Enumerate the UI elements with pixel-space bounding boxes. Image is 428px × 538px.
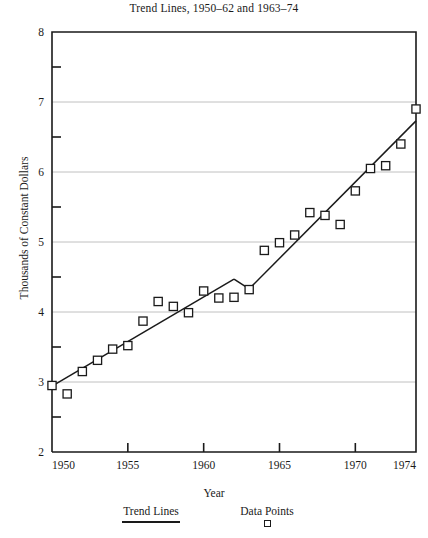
svg-text:1970: 1970 [344, 459, 367, 471]
plot-area: 2345678 195019551960196519701974 [0, 0, 428, 538]
svg-text:8: 8 [38, 26, 44, 38]
svg-text:2: 2 [38, 446, 44, 458]
x-axis-ticks [128, 443, 356, 452]
legend-item-trend-lines: Trend Lines [96, 505, 206, 523]
chart-legend: Trend Lines Data Points [0, 505, 428, 538]
svg-text:7: 7 [38, 96, 44, 108]
legend-line-swatch [122, 521, 180, 523]
x-axis-tick-labels: 195019551960196519701974 [52, 459, 416, 471]
svg-text:6: 6 [38, 166, 44, 178]
legend-label-data-points: Data Points [240, 505, 293, 517]
legend-label-trend-lines: Trend Lines [123, 505, 178, 517]
chart-figure: Trend Lines, 1950–62 and 1963–74 Thousan… [0, 0, 428, 538]
y-axis-tick-labels: 2345678 [38, 26, 44, 458]
svg-text:1950: 1950 [52, 459, 75, 471]
svg-text:3: 3 [38, 376, 44, 388]
svg-text:5: 5 [38, 236, 44, 248]
svg-text:4: 4 [38, 306, 44, 318]
svg-text:1965: 1965 [268, 459, 291, 471]
legend-square-swatch [264, 520, 271, 527]
svg-text:1955: 1955 [116, 459, 139, 471]
svg-text:1960: 1960 [192, 459, 215, 471]
data-points [48, 105, 420, 398]
legend-item-data-points: Data Points [212, 505, 322, 527]
svg-text:1974: 1974 [393, 459, 416, 471]
trend-lines [52, 121, 416, 386]
gridlines [52, 102, 416, 382]
